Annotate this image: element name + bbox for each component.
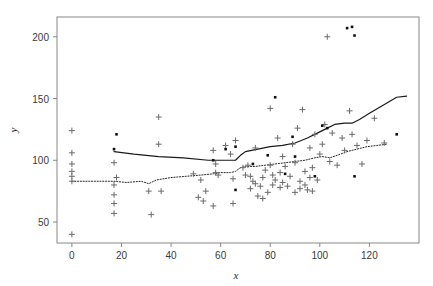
dot-marker — [252, 163, 255, 166]
dot-marker — [314, 175, 317, 178]
dot-marker — [113, 148, 116, 151]
dot-marker — [346, 27, 349, 30]
dot-marker — [234, 189, 237, 192]
dot-marker — [284, 173, 287, 176]
x-tick-label: 80 — [265, 250, 277, 261]
x-tick-label: 60 — [215, 250, 227, 261]
dot-marker — [353, 34, 356, 37]
y-tick-label: 50 — [38, 217, 50, 228]
scatter-plot-figure: 020406080100120 50100150200 x y — [0, 0, 433, 286]
dot-marker — [291, 135, 294, 138]
x-axis-title: x — [233, 269, 239, 281]
dot-marker — [266, 154, 269, 157]
y-tick-label: 200 — [32, 32, 49, 43]
plot-canvas: 020406080100120 50100150200 x y — [0, 0, 433, 286]
x-tick-label: 100 — [311, 250, 328, 261]
dot-marker — [274, 96, 277, 99]
dot-marker — [321, 124, 324, 127]
y-tick-label: 150 — [32, 94, 49, 105]
dot-marker — [224, 148, 227, 151]
x-tick-label: 0 — [69, 250, 75, 261]
x-tick-label: 40 — [165, 250, 177, 261]
y-axis-title: y — [7, 127, 19, 133]
dot-marker — [326, 127, 329, 130]
dot-marker — [115, 133, 118, 136]
dot-marker — [351, 26, 354, 29]
x-tick-label: 120 — [361, 250, 378, 261]
dot-marker — [294, 155, 297, 158]
y-tick-label: 100 — [32, 155, 49, 166]
dot-marker — [395, 133, 398, 136]
dot-marker — [234, 145, 237, 148]
x-tick-label: 20 — [116, 250, 128, 261]
dot-marker — [212, 159, 215, 162]
dot-marker — [353, 175, 356, 178]
